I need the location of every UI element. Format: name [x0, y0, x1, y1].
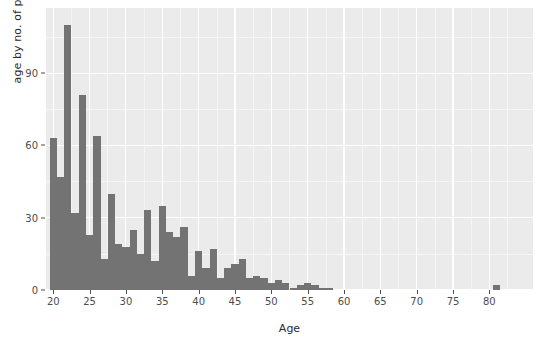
histogram-chart: age by no. of people 0306090 20253035404…	[0, 0, 558, 346]
x-tick-label: 25	[70, 296, 110, 307]
x-tick-mark	[453, 290, 454, 294]
x-tick-label: 50	[251, 296, 291, 307]
x-tick-mark	[90, 290, 91, 294]
x-tick-label: 80	[469, 296, 509, 307]
x-tick-mark	[235, 290, 236, 294]
x-tick-label: 20	[33, 296, 73, 307]
y-tick-mark	[41, 145, 45, 146]
y-tick-mark	[41, 73, 45, 74]
x-tick-mark	[53, 290, 54, 294]
x-tick-label: 35	[142, 296, 182, 307]
x-axis-title: Age	[46, 322, 533, 335]
x-tick-label: 55	[288, 296, 328, 307]
x-tick-mark	[162, 290, 163, 294]
x-tick-label: 70	[397, 296, 437, 307]
y-tick-mark	[41, 217, 45, 218]
x-tick-mark	[271, 290, 272, 294]
y-tick-mark	[41, 290, 45, 291]
x-tick-label: 65	[360, 296, 400, 307]
x-tick-label: 75	[433, 296, 473, 307]
x-tick-mark	[199, 290, 200, 294]
x-tick-label: 30	[106, 296, 146, 307]
x-axis-ticks: 20253035404550556065707580	[0, 0, 558, 346]
x-tick-label: 45	[215, 296, 255, 307]
x-tick-mark	[308, 290, 309, 294]
x-tick-label: 60	[324, 296, 364, 307]
x-tick-mark	[489, 290, 490, 294]
x-tick-mark	[344, 290, 345, 294]
x-tick-mark	[380, 290, 381, 294]
x-tick-mark	[126, 290, 127, 294]
x-tick-mark	[417, 290, 418, 294]
x-tick-label: 40	[179, 296, 219, 307]
